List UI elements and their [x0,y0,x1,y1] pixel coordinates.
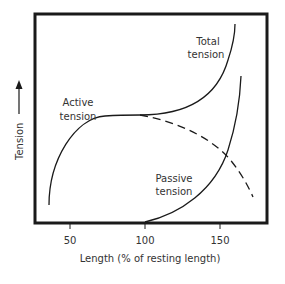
active-tension-curve [49,115,140,205]
label-passive-tension: tension [156,186,193,197]
tick-label-100: 100 [135,235,154,246]
x-axis-label: Length (% of resting length) [80,253,221,264]
label-total-tension: tension [188,49,225,60]
tick-label-150: 150 [210,235,229,246]
length-tension-diagram: Total tension Active tension Passive ten… [0,0,285,284]
label-total: Total [195,36,219,47]
total-tension-curve [140,24,235,115]
label-active: Active [63,97,94,108]
active-tension-dashed-curve [140,115,253,197]
label-active-tension: tension [60,111,97,122]
label-passive: Passive [156,173,193,184]
y-axis-label: Tension [14,123,25,161]
passive-tension-curve [145,76,241,222]
arrow-up-icon [16,80,23,89]
tick-label-50: 50 [64,235,77,246]
